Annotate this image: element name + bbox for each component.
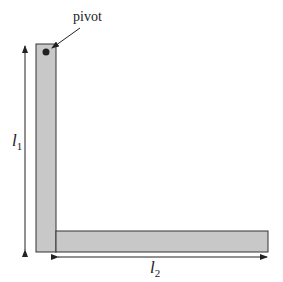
l2-sub: 2 <box>155 267 161 279</box>
pivot-label: pivot <box>73 9 102 25</box>
vertical-bar <box>36 44 56 252</box>
l2-label: l2 <box>150 258 160 279</box>
horizontal-bar <box>56 231 268 252</box>
diagram-canvas <box>0 0 283 282</box>
pivot-dot <box>43 49 50 56</box>
l1-label: l1 <box>12 131 22 152</box>
pivot-pointer-arrow <box>52 28 80 48</box>
l1-sub: 1 <box>17 140 23 152</box>
